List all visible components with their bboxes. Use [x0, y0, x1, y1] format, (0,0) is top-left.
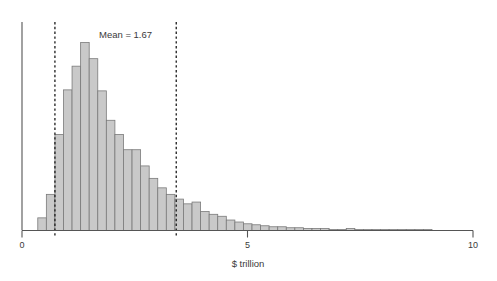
histogram-bars — [38, 42, 432, 230]
histogram-bar — [115, 135, 124, 231]
histogram-bar — [149, 178, 158, 230]
histogram-bar — [166, 194, 175, 230]
histogram-bar — [226, 220, 235, 230]
histogram-bar — [63, 90, 72, 231]
histogram-bar — [55, 135, 64, 231]
x-axis-title: $ trillion — [232, 258, 265, 269]
histogram-bar — [269, 227, 278, 231]
x-tick-label: 0 — [19, 240, 24, 250]
histogram-bar — [132, 150, 141, 231]
histogram-bar — [158, 188, 167, 231]
histogram-bar — [209, 214, 218, 230]
histogram-bar — [106, 120, 115, 230]
histogram-bar — [123, 150, 132, 231]
histogram-bar — [192, 202, 201, 230]
histogram-bar — [81, 42, 90, 230]
x-tick-label: 5 — [245, 240, 250, 250]
histogram-bar — [218, 216, 227, 230]
histogram-bar — [278, 227, 287, 231]
histogram-bar — [261, 226, 270, 231]
histogram-bar — [72, 66, 81, 230]
histogram-bar — [243, 224, 252, 231]
histogram-bar — [46, 194, 55, 230]
histogram-bar — [183, 204, 192, 231]
histogram-bar — [98, 91, 107, 231]
histogram-bar — [201, 212, 210, 231]
histogram-bar — [89, 59, 98, 231]
histogram-bar — [141, 166, 150, 231]
histogram-bar — [235, 222, 244, 230]
histogram-figure: 0510 $ trillion Mean = 1.67 — [0, 0, 497, 281]
x-tick-label: 10 — [468, 240, 478, 250]
histogram-bar — [252, 225, 261, 231]
x-axis-ticks — [22, 231, 473, 238]
histogram-bar — [38, 218, 47, 231]
mean-annotation: Mean = 1.67 — [99, 29, 152, 40]
